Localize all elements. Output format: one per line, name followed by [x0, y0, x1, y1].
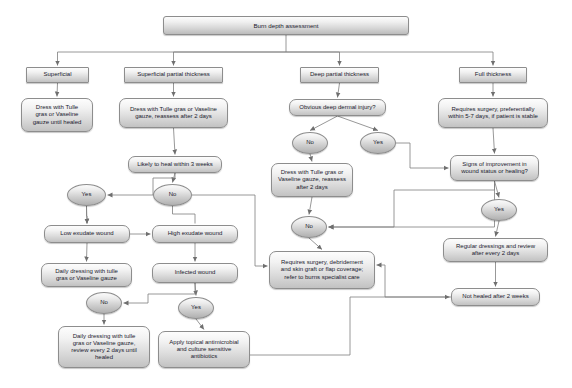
- node-obvDermal: Obvious deep dermal injury?: [289, 99, 386, 116]
- connector: [377, 265, 452, 297]
- node-label: No: [294, 223, 324, 230]
- connector: [493, 128, 495, 154]
- connector: [57, 83, 58, 97]
- node-label: Full thickness: [462, 71, 524, 78]
- node-label: Deep partial thickness: [303, 71, 376, 78]
- node-label: Low exudate wound: [47, 230, 127, 237]
- node-label: No: [156, 191, 189, 198]
- connector: [250, 297, 450, 355]
- node-label: No: [89, 299, 119, 306]
- node-signsImp: Signs of improvement in wound status or …: [450, 155, 539, 181]
- node-dressSPT: Dress with Tulle gras or Vaseline gauze,…: [119, 98, 228, 128]
- node-noHeal: No: [153, 184, 192, 206]
- node-deepPartial: Deep partial thickness: [300, 67, 379, 83]
- connector: [309, 197, 312, 215]
- node-dressDeep: Dress with Tulle gras or Vaseline gauze,…: [271, 163, 353, 197]
- connector: [496, 221, 500, 237]
- node-label: Yes: [363, 139, 393, 146]
- node-yesHeal: Yes: [67, 184, 106, 206]
- node-dailyLow: Daily dressing with tulle gras or Vaseli…: [41, 263, 132, 287]
- node-label: Dress with Tulle gras or Vaseline gauze,…: [122, 106, 225, 120]
- connector: [310, 154, 312, 162]
- node-label: Yes: [181, 304, 211, 311]
- node-superficial: Superficial: [26, 67, 89, 83]
- node-label: Yes: [484, 206, 514, 213]
- node-yesDermal: Yes: [360, 132, 396, 154]
- node-label: No: [295, 139, 325, 146]
- node-label: Superficial: [29, 71, 86, 78]
- node-noDermal: No: [292, 132, 328, 154]
- node-noInfect: No: [86, 292, 122, 314]
- node-lowExudate: Low exudate wound: [44, 225, 130, 243]
- node-label: Dress with Tulle gras or Vaseline gauze,…: [274, 169, 350, 190]
- node-reqSurgDeb: Requires surgery, debridement and skin g…: [269, 251, 375, 289]
- node-regDress: Regular dressings and review after every…: [443, 238, 548, 262]
- node-label: Requires surgery, debridement and skin g…: [272, 259, 372, 280]
- node-label: Daily dressing with tulle gras or Vaseli…: [44, 268, 129, 282]
- connector: [196, 319, 204, 330]
- node-label: High exudate wound: [155, 230, 235, 237]
- connector: [338, 83, 340, 98]
- node-yesImp: Yes: [481, 199, 517, 221]
- burn-depth-assessment-flowchart: Burn depth assessmentSuperficialSuperfic…: [0, 0, 572, 388]
- node-label: Daily dressing with tulle gras or Vaseli…: [61, 333, 147, 361]
- node-notHealed: Not healed after 2 weeks: [451, 288, 540, 306]
- node-reqSurgery: Requires surgery, preferentially within …: [438, 98, 548, 128]
- node-applyAnti: Apply topical antimicrobial and culture …: [158, 331, 250, 368]
- connector: [396, 143, 449, 168]
- connector: [174, 128, 176, 155]
- node-label: Not healed after 2 weeks: [454, 293, 537, 300]
- node-fullThick: Full thickness: [459, 67, 527, 83]
- node-label: Burn depth assessment: [166, 22, 406, 29]
- node-label: Infected wound: [155, 269, 235, 276]
- node-likelyHeal: Likely to heal within 3 weeks: [128, 156, 222, 173]
- connector: [309, 238, 322, 250]
- node-label: Superficial partial thickness: [127, 71, 220, 78]
- connector: [173, 206, 196, 224]
- node-infected: Infected wound: [152, 263, 238, 283]
- connector: [87, 243, 88, 262]
- node-highExudate: High exudate wound: [152, 225, 238, 243]
- node-label: Likely to heal within 3 weeks: [131, 161, 219, 168]
- connector: [329, 181, 495, 227]
- node-label: Regular dressings and review after every…: [446, 243, 545, 257]
- node-label: Signs of improvement in wound status or …: [453, 161, 536, 175]
- node-dailyReview: Daily dressing with tulle gras or Vaseli…: [58, 326, 150, 368]
- node-label: Apply topical antimicrobial and culture …: [161, 339, 247, 360]
- node-label: Yes: [70, 191, 103, 198]
- node-label: Obvious deep dermal injury?: [292, 104, 383, 111]
- node-root: Burn depth assessment: [163, 16, 409, 35]
- node-noImp: No: [291, 216, 327, 238]
- node-supPartial: Superficial partial thickness: [124, 67, 223, 83]
- connector: [495, 181, 500, 198]
- connector: [338, 116, 379, 131]
- node-yesInfect: Yes: [178, 297, 214, 319]
- connector: [329, 181, 495, 227]
- node-label: Dress with Tulle gras or Vaseline gauze …: [24, 104, 90, 125]
- connector: [310, 116, 338, 131]
- node-dressSup: Dress with Tulle gras or Vaseline gauze …: [21, 98, 93, 132]
- node-label: Requires surgery, preferentially within …: [441, 106, 545, 120]
